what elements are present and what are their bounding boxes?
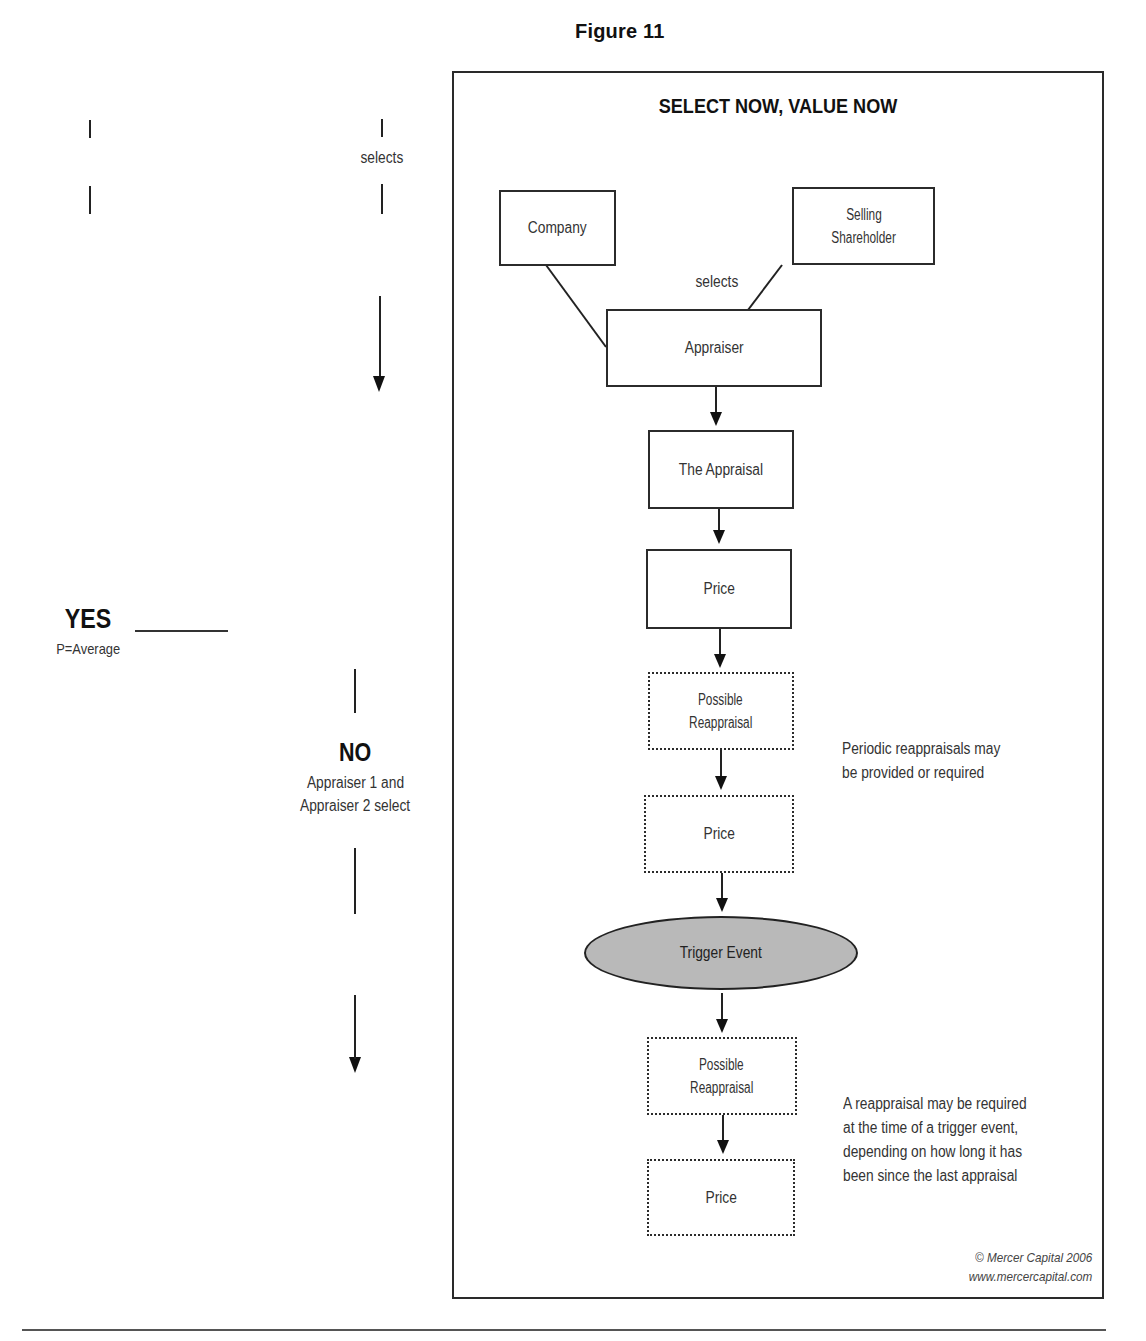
figure-label: Figure 11 — [575, 20, 665, 43]
figure-title: SELECT NOW, VALUE NOW — [498, 94, 1059, 118]
left-fragment-line — [89, 186, 91, 214]
left-fragment-line — [381, 119, 383, 137]
node-possible-reappraisal-1: PossibleReappraisal — [648, 672, 794, 750]
left-fragment-line — [354, 669, 356, 713]
left-fragment-arrow-line — [354, 995, 356, 1059]
node-company: Company — [499, 190, 616, 266]
no-label: NO — [321, 738, 390, 767]
node-trigger-event: Trigger Event — [584, 916, 858, 990]
node-possible-reappraisal-2: PossibleReappraisal — [647, 1037, 797, 1115]
page-rule — [22, 1329, 1106, 1331]
copyright: © Mercer Capital 2006 www.mercercapital.… — [955, 1248, 1092, 1286]
node-price-1: Price — [646, 549, 792, 629]
arrowhead-icon — [373, 376, 385, 392]
node-selling-shareholder: SellingShareholder — [792, 187, 935, 265]
yes-subtitle: P=Average — [34, 638, 142, 660]
no-description: Appraiser 1 and Appraiser 2 select — [280, 771, 430, 817]
left-selects-label: selects — [340, 146, 424, 169]
edge-label-selects: selects — [672, 270, 762, 293]
left-fragment-line — [354, 848, 356, 914]
left-fragment-line — [381, 184, 383, 214]
left-fragment-arrow-line — [379, 296, 381, 376]
note-trigger-reappraisal: A reappraisal may be required at the tim… — [843, 1092, 1056, 1188]
note-periodic-reappraisals: Periodic reappraisals may be provided or… — [842, 737, 1026, 785]
node-price-3: Price — [647, 1159, 795, 1236]
node-the-appraisal: The Appraisal — [648, 430, 794, 509]
left-fragment-line — [89, 120, 91, 138]
node-appraiser: Appraiser — [606, 309, 822, 387]
node-price-2: Price — [644, 795, 794, 873]
arrowhead-icon — [349, 1057, 361, 1073]
yes-label: YES — [54, 604, 121, 635]
yes-line — [135, 630, 228, 632]
